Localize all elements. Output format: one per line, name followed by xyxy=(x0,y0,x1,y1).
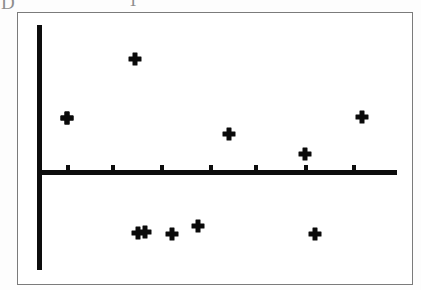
scatter-plot-area xyxy=(18,13,414,286)
x-axis-tick-6 xyxy=(304,165,308,172)
x-axis-tick-3 xyxy=(160,165,164,172)
data-point-marker xyxy=(356,111,369,124)
x-axis-tick-7 xyxy=(352,165,356,172)
data-point-marker xyxy=(129,53,142,66)
data-point-marker xyxy=(61,112,74,125)
scan-artifact-mid-glyph: T xyxy=(128,0,138,9)
figure-root: D T xyxy=(0,0,421,290)
data-point-marker xyxy=(192,220,205,233)
data-point-marker xyxy=(299,148,312,161)
x-axis-tick-1 xyxy=(66,165,70,172)
data-point-marker xyxy=(166,228,179,241)
x-axis-tick-5 xyxy=(254,165,258,172)
x-axis-line xyxy=(37,170,397,175)
x-axis-tick-4 xyxy=(209,165,213,172)
data-point-marker xyxy=(309,228,322,241)
plot-frame-border xyxy=(17,12,413,285)
y-axis-line xyxy=(37,25,42,270)
data-point-marker xyxy=(223,128,236,141)
data-point-marker xyxy=(139,226,152,239)
scan-artifact-left-glyph: D xyxy=(1,0,15,12)
x-axis-tick-2 xyxy=(111,165,115,172)
